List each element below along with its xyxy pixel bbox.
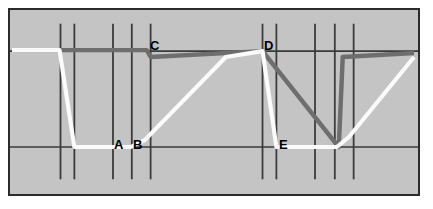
point-label-d: D: [264, 39, 273, 52]
diagram-frame: A B C D E: [8, 8, 420, 196]
waveform-plot: [10, 10, 418, 194]
point-label-a: A: [114, 138, 123, 151]
point-label-c: C: [150, 39, 159, 52]
waveform-diagram-root: A B C D E: [0, 0, 433, 209]
point-label-b: B: [133, 138, 142, 151]
vertical-gridlines: [61, 24, 354, 180]
point-label-e: E: [279, 138, 288, 151]
